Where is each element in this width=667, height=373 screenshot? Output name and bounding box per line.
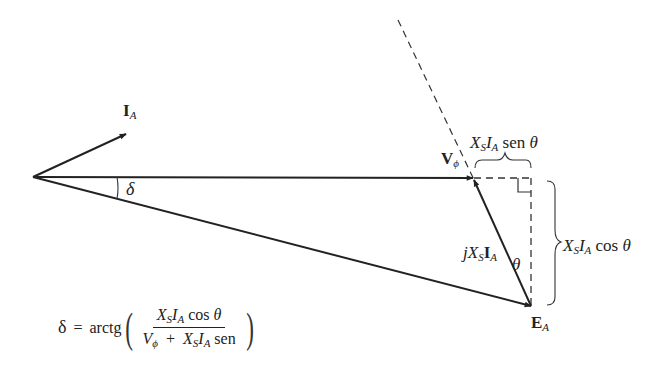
label-ia: IA	[123, 102, 136, 121]
label-xsia-cos-theta: XSIA cos θ	[563, 237, 631, 256]
formula-fraction: XSIA cos θ Vϕ + XSIA sen	[139, 306, 240, 349]
label-ea: EA	[531, 314, 549, 333]
formula-lhs: δ	[58, 317, 66, 338]
formula-left-paren: (	[125, 307, 133, 349]
label-theta: θ	[512, 256, 520, 273]
dashed-reference-line	[398, 20, 476, 184]
formula-right-paren: )	[246, 307, 254, 349]
delta-formula: δ = arctg ( XSIA cos θ Vϕ + XSIA sen )	[58, 306, 257, 349]
formula-denominator: Vϕ + XSIA sen	[139, 328, 240, 349]
delta-angle-arc	[117, 177, 118, 199]
phasor-ia-arrow	[33, 134, 126, 177]
phasor-jxsia-arrow	[474, 180, 531, 306]
vertical-brace	[547, 181, 561, 305]
right-angle-marker	[518, 178, 531, 192]
label-xsia-sen-theta: XSIA sen θ	[470, 134, 538, 153]
label-vphi: Vϕ	[441, 150, 459, 169]
label-jxsia: jXSIA	[463, 244, 497, 263]
formula-eq: =	[73, 319, 82, 337]
formula-numerator: XSIA cos θ	[153, 306, 226, 328]
phasor-vphi-arrow	[33, 177, 473, 178]
label-delta: δ	[126, 180, 134, 198]
phasor-ea-arrow	[33, 177, 531, 306]
formula-func: arctg	[90, 319, 122, 337]
horizontal-brace	[475, 153, 531, 168]
